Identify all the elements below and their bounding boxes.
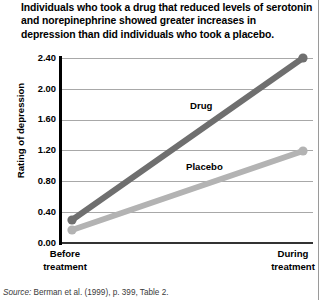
drug-marker-during bbox=[298, 53, 307, 62]
x-tick-line-2: treatment bbox=[248, 261, 333, 274]
source-prefix: Source: bbox=[3, 288, 31, 297]
figure-container: Individuals who took a drug that reduced… bbox=[0, 0, 333, 307]
drug-marker-before bbox=[67, 215, 76, 224]
x-tick-line-1: During bbox=[248, 248, 333, 261]
source-text: Berman et al. (1999), p. 399, Table 2. bbox=[34, 288, 169, 297]
series-label-drug: Drug bbox=[189, 100, 213, 111]
x-tick-line-2: treatment bbox=[20, 261, 110, 274]
x-tick-label-before: Before treatment bbox=[20, 248, 110, 273]
placebo-marker-before bbox=[67, 225, 76, 234]
x-tick-label-during: During treatment bbox=[248, 248, 333, 273]
drug-line bbox=[72, 58, 303, 220]
placebo-marker-during bbox=[298, 146, 307, 155]
series-label-placebo: Placebo bbox=[185, 161, 224, 172]
figure-source: Source: Berman et al. (1999), p. 399, Ta… bbox=[3, 288, 169, 297]
x-tick-line-1: Before bbox=[20, 248, 110, 261]
